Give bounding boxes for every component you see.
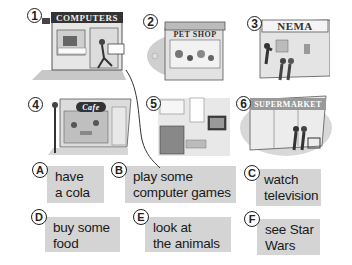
matching-line [0, 0, 352, 265]
activity-letter-e: E [133, 209, 149, 225]
activity-letter-d: D [31, 209, 47, 225]
activity-letter-b: B [111, 162, 127, 178]
activity-letter-a: A [32, 162, 48, 178]
number-badge: 4 [28, 97, 43, 112]
activity-letter-f: F [244, 211, 260, 227]
number-badge: 6 [236, 96, 251, 111]
number-badge: 1 [27, 8, 42, 23]
number-badge: 3 [247, 16, 262, 31]
number-badge: 2 [143, 14, 158, 29]
number-badge: 5 [146, 96, 161, 111]
activity-letter-c: C [244, 165, 260, 181]
